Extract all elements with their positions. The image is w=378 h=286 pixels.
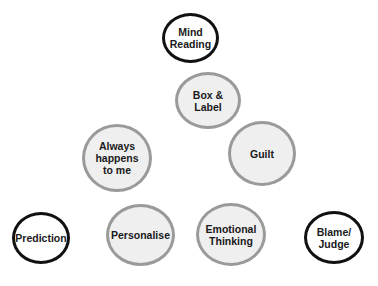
node-label: Emotional Thinking	[206, 223, 257, 247]
node-label: Box & Label	[193, 89, 223, 113]
node-label: Blame/ Judge	[317, 226, 351, 250]
node-label: Guilt	[250, 148, 274, 160]
node-label: Personalise	[111, 229, 170, 241]
node-blame-judge: Blame/ Judge	[304, 211, 364, 264]
node-guilt: Guilt	[228, 121, 296, 186]
node-always-happens: Always happens to me	[82, 124, 152, 192]
node-emotional-thinking: Emotional Thinking	[196, 203, 266, 266]
node-label: Always happens to me	[95, 140, 138, 176]
node-personalise: Personalise	[106, 204, 175, 266]
node-label: Mind Reading	[170, 26, 211, 50]
node-prediction: Prediction	[12, 212, 70, 264]
node-box-label: Box & Label	[175, 72, 241, 129]
node-mind-reading: Mind Reading	[162, 13, 219, 63]
node-label: Prediction	[15, 232, 66, 244]
